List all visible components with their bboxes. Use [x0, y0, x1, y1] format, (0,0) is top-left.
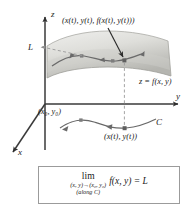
space-curve-point-marker	[122, 58, 126, 62]
plane-curve-arrow-2	[106, 124, 112, 130]
space-curve-marker-2	[111, 59, 114, 62]
z-axis-label: z	[51, 10, 55, 19]
limit-formula-box: lim (x, y)→(x₀, y₀) (along C) f(x, y) = …	[38, 166, 180, 204]
limit-level-tick	[41, 45, 46, 49]
limit-value-label: L	[28, 43, 33, 52]
surface-equation-label: z = f(x, y)	[139, 78, 172, 86]
limit-expression: f(x, y) = L	[109, 176, 148, 186]
limit-operator-stack: lim (x, y)→(x₀, y₀) (along C)	[70, 172, 106, 196]
surface-patch	[47, 31, 171, 78]
space-curve-point-label: (x(t), y(t), f(x(t), y(t)))	[62, 17, 135, 25]
plane-curve-c	[60, 118, 156, 131]
x-axis-label: x	[18, 148, 22, 157]
curve-c-label: C	[156, 118, 162, 127]
limit-formula-inner: lim (x, y)→(x₀, y₀) (along C) f(x, y) = …	[39, 167, 179, 203]
limit-subscript-along-curve: (along C)	[70, 189, 106, 196]
plane-curve-point-marker	[123, 126, 127, 130]
plane-curve-point-label: (x(t), y(t))	[104, 133, 137, 141]
plane-curve-marker-1	[79, 118, 82, 121]
y-axis-label: y	[176, 92, 180, 101]
domain-point-label: (x₀, y₀)	[38, 108, 61, 116]
